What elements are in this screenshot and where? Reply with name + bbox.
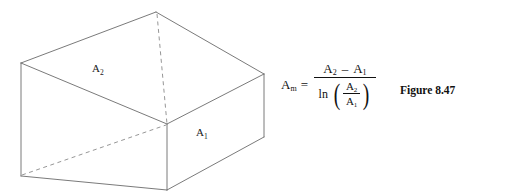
right-paren: ): [363, 85, 370, 104]
inner-term-a1-base: A: [346, 95, 354, 107]
inner-fraction-ratio: A2 A1: [343, 81, 360, 107]
numerator-term-a1-base: A: [353, 61, 362, 76]
inner-term-a1-sub: 1: [354, 101, 358, 109]
edge-center-righttop: [167, 74, 264, 124]
numerator-term-a1-sub: 1: [363, 68, 367, 77]
equation-lhs-base: A: [281, 77, 290, 92]
minus-operator: –: [342, 62, 349, 75]
equation-lhs: Am: [281, 78, 297, 91]
edge-centerbottom-rightbottom: [167, 137, 264, 190]
prism-diagram: A2 A1: [0, 0, 290, 196]
numerator-term-a2-base: A: [323, 61, 332, 76]
numerator-term-a1: A1: [353, 62, 366, 75]
edge-leftbottom-centerbottom: [21, 176, 167, 190]
outer-fraction-numerator: A2 – A1: [319, 62, 370, 77]
area-label-a1: A1: [196, 126, 208, 141]
left-paren: (: [334, 85, 341, 104]
edge-lefttop-apex: [21, 12, 156, 63]
numerator-term-a2-sub: 2: [333, 68, 337, 77]
inner-term-a2-base: A: [346, 80, 354, 92]
area-label-a2-sub: 2: [100, 68, 104, 77]
inner-fraction-denominator: A1: [343, 94, 360, 107]
hidden-edge-leftbottom-center: [22, 125, 166, 175]
figure-page: A2 A1 Am = A2 – A1 ln ( A: [0, 0, 508, 196]
inner-term-a2: A2: [346, 80, 357, 92]
equation-lhs-sub: m: [290, 84, 296, 93]
edge-apex-righttop: [156, 12, 264, 74]
inner-fraction-numerator: A2: [343, 81, 360, 93]
area-label-a1-base: A: [196, 126, 204, 138]
area-label-a2-base: A: [92, 62, 100, 74]
area-label-a2: A2: [92, 62, 104, 77]
hidden-edge-apex-vertical: [157, 14, 167, 124]
equation-mean-area: Am = A2 – A1 ln ( A2: [281, 62, 376, 107]
area-label-a1-sub: 1: [204, 132, 208, 141]
outer-fraction-denominator: ln ( A2 A1 ): [315, 78, 376, 107]
numerator-term-a2: A2: [323, 62, 336, 75]
outer-fraction: A2 – A1 ln ( A2 A1: [314, 62, 376, 107]
equals-sign: =: [301, 78, 308, 91]
figure-caption: Figure 8.47: [400, 84, 455, 96]
natural-log-function: ln: [319, 88, 328, 100]
parenthesized-ratio: ( A2 A1 ): [332, 81, 371, 107]
inner-term-a1: A1: [346, 95, 357, 107]
